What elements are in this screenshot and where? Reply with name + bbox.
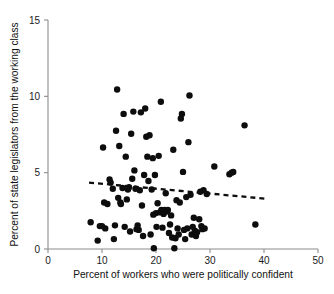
data-point (142, 105, 148, 111)
data-point (175, 231, 181, 237)
data-point (100, 144, 106, 150)
data-point (170, 147, 176, 153)
data-point (184, 225, 190, 231)
regression-trend-line (89, 183, 265, 199)
data-point (104, 201, 110, 207)
x-tick-label: 10 (96, 255, 108, 266)
data-point (114, 86, 120, 92)
data-point (187, 192, 193, 198)
y-tick-label: 15 (29, 15, 41, 26)
axes-group (44, 20, 318, 253)
data-point (171, 245, 177, 251)
data-point (165, 207, 171, 213)
data-point (146, 132, 152, 138)
data-point (116, 143, 122, 149)
data-point (174, 225, 180, 231)
data-point (120, 111, 126, 117)
data-point (158, 98, 164, 104)
x-tick-label: 0 (45, 255, 51, 266)
data-point (211, 163, 217, 169)
data-point (150, 155, 156, 161)
data-point (159, 224, 165, 230)
data-point (128, 131, 134, 137)
axis-labels-group: 01020304050051015Percent of workers who … (9, 15, 324, 280)
data-points-group (87, 86, 258, 251)
data-point (153, 224, 159, 230)
data-point (152, 172, 158, 178)
data-point (127, 228, 133, 234)
data-point (136, 227, 142, 233)
data-point (182, 236, 188, 242)
data-point (147, 231, 153, 237)
data-point (87, 219, 93, 225)
data-point (139, 202, 145, 208)
data-point (252, 221, 258, 227)
data-point (144, 153, 150, 159)
x-tick-label: 20 (150, 255, 162, 266)
data-point (137, 187, 143, 193)
data-point (156, 153, 162, 159)
data-point (112, 222, 118, 228)
y-tick-label: 0 (34, 244, 40, 255)
data-point (123, 153, 129, 159)
data-point (194, 229, 200, 235)
data-point (163, 190, 169, 196)
data-point (121, 224, 127, 230)
data-point (124, 196, 130, 202)
data-point (107, 179, 113, 185)
data-point (126, 184, 132, 190)
data-point (141, 172, 147, 178)
data-point (111, 236, 117, 242)
x-axis-title: Percent of workers who were politically … (73, 269, 293, 280)
data-point (151, 245, 157, 251)
data-point (230, 169, 236, 175)
data-point (186, 92, 192, 98)
y-tick-label: 5 (34, 167, 40, 178)
data-point (102, 225, 108, 231)
data-point (177, 199, 183, 205)
data-point (145, 178, 151, 184)
data-point (140, 233, 146, 239)
data-point (196, 216, 202, 222)
data-point (191, 215, 197, 221)
y-axis-title: Percent of state legislators from the wo… (9, 22, 20, 246)
data-point (241, 122, 247, 128)
data-point (180, 169, 186, 175)
trend-line-group (89, 183, 265, 199)
data-point (185, 139, 191, 145)
data-point (118, 201, 124, 207)
data-point (110, 186, 116, 192)
data-point (201, 225, 207, 231)
y-tick-label: 10 (29, 91, 41, 102)
scatter-plot-figure: 01020304050051015Percent of workers who … (0, 0, 334, 294)
data-point (179, 111, 185, 117)
data-point (204, 191, 210, 197)
data-point (130, 108, 136, 114)
data-point (148, 186, 154, 192)
x-tick-label: 50 (312, 255, 324, 266)
data-point (119, 185, 125, 191)
data-point (154, 200, 160, 206)
data-point (113, 127, 119, 133)
data-point (131, 167, 137, 173)
data-point (168, 212, 174, 218)
x-tick-label: 40 (258, 255, 270, 266)
data-point (129, 176, 135, 182)
data-point (94, 237, 100, 243)
plot-canvas: 01020304050051015Percent of workers who … (0, 0, 334, 294)
x-tick-label: 30 (204, 255, 216, 266)
data-point (167, 221, 173, 227)
